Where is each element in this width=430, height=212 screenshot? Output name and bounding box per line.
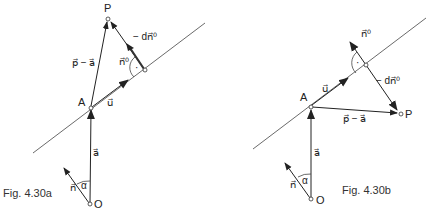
point-A xyxy=(309,105,313,109)
label-u: u⃗ xyxy=(322,83,328,94)
label-alpha: α xyxy=(81,180,87,191)
point-O xyxy=(88,202,92,206)
label-n0: n⃗⁰ xyxy=(119,56,129,67)
label-O: O xyxy=(316,194,325,206)
label-a: a⃗ xyxy=(93,147,99,158)
label-p-minus-a: p⃗ − a⃗ xyxy=(343,113,366,124)
label-u: u⃗ xyxy=(107,97,113,108)
label-alpha: α xyxy=(302,175,308,186)
label-minus-d-n0: − dn⃗⁰ xyxy=(133,31,157,42)
label-a: a⃗ xyxy=(314,147,320,158)
label-n: n⃗ xyxy=(290,179,296,190)
vector-a xyxy=(90,110,91,203)
vector-minus-d-n0 xyxy=(366,65,397,110)
right-angle-mark: · xyxy=(135,62,138,73)
line-g xyxy=(33,23,205,153)
label-n0: n⃗⁰ xyxy=(361,28,371,39)
vector-u xyxy=(312,78,348,105)
label-O: O xyxy=(94,198,103,210)
figure-b: · P A O p⃗ − a⃗ − dn⃗⁰ n⃗⁰ u⃗ a⃗ n⃗ α Fi… xyxy=(253,18,426,206)
right-angle-mark: · xyxy=(356,57,359,68)
point-A xyxy=(89,106,93,110)
label-minus-d-n0: − dn⃗⁰ xyxy=(376,75,400,86)
label-P: P xyxy=(405,108,412,120)
caption-fig-b: Fig. 4.30b xyxy=(342,184,391,196)
caption-fig-a: Fig. 4.30a xyxy=(3,187,53,199)
n0-arrowhead-icon xyxy=(126,43,134,51)
label-A: A xyxy=(300,91,308,103)
figure-a: · P A O p⃗ − a⃗ − dn⃗⁰ n⃗⁰ u⃗ a⃗ n⃗ α Fi… xyxy=(3,2,205,210)
point-P xyxy=(106,17,110,21)
label-n: n⃗ xyxy=(70,182,76,193)
label-p-minus-a: p⃗ − a⃗ xyxy=(72,57,95,68)
point-foot xyxy=(364,63,368,67)
point-foot xyxy=(143,68,147,72)
point-O xyxy=(309,197,313,201)
label-A: A xyxy=(78,96,86,108)
point-P xyxy=(399,112,403,116)
vector-diagram: · P A O p⃗ − a⃗ − dn⃗⁰ n⃗⁰ u⃗ a⃗ n⃗ α Fi… xyxy=(0,0,430,212)
label-P: P xyxy=(104,2,111,14)
